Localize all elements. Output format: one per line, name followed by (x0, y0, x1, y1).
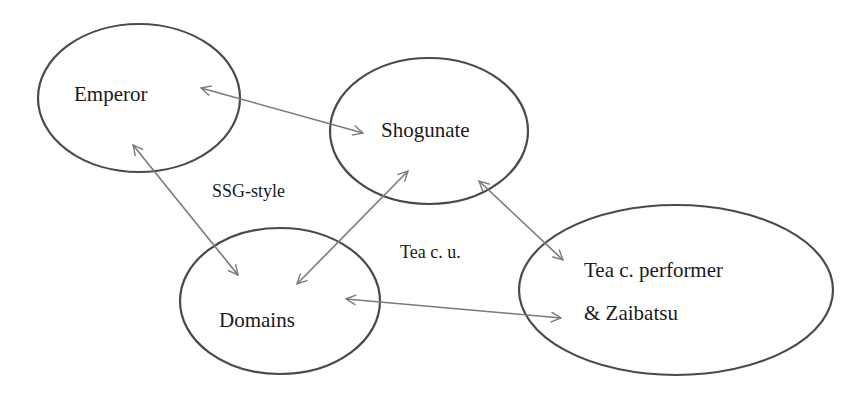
domains-ellipse (180, 228, 380, 374)
edges (133, 88, 563, 318)
arrow-shogunate-domains (297, 171, 408, 284)
emperor-label: Emperor (74, 82, 147, 106)
arrow-shogunate-tea (479, 181, 563, 260)
tea-label-line2: & Zaibatsu (584, 301, 678, 325)
edge-label-tea-cu: Tea c. u. (400, 242, 461, 262)
tea-label-line1: Tea c. performer (584, 258, 723, 282)
node-emperor: Emperor (38, 24, 240, 172)
tea-ellipse (519, 205, 833, 375)
node-shogunate: Shogunate (330, 58, 528, 204)
node-tea-performer-zaibatsu: Tea c. performer & Zaibatsu (519, 205, 833, 375)
shogunate-label: Shogunate (381, 118, 470, 142)
relationship-diagram: Emperor Shogunate Domains Tea c. perform… (0, 0, 868, 393)
edge-label-ssg-style: SSG-style (212, 181, 285, 201)
domains-label: Domains (219, 308, 295, 332)
node-domains: Domains (180, 228, 380, 374)
arrow-emperor-shogunate (201, 88, 363, 133)
